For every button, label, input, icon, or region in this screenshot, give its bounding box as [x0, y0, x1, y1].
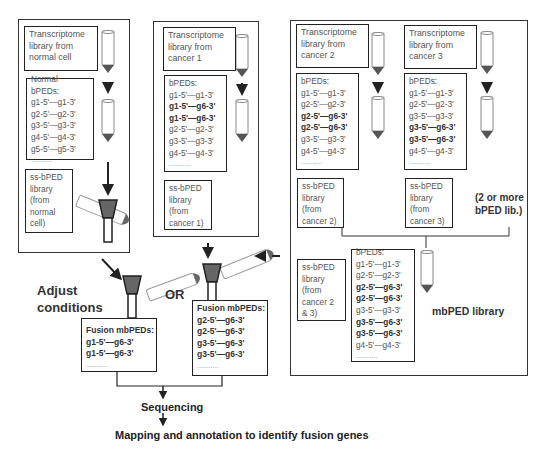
cancer1-bped-box: bPEDs: g1-5'—g1-3' g1-5'—g6-3' g1-5'—g6-… [164, 75, 227, 172]
ss-bped-line: (from [302, 285, 341, 297]
fusion-title: Fusion mbPEDs: [197, 303, 263, 315]
bped-item: g4-5'—g4-3' [31, 132, 89, 144]
ss-bped-line: & 3) [302, 308, 341, 320]
ss-bped-line: cancer 2 [302, 297, 341, 309]
fusion-left-box: Fusion mbPEDs: g1-5'—g6-3' g1-5'—g6-3' .… [81, 318, 157, 372]
bped-title: bPEDs: [409, 76, 462, 88]
bped-item: g2-5'—g2-3' [301, 99, 354, 111]
ss-bped-line: (from [30, 195, 68, 207]
ellipsis: ........... [86, 360, 152, 370]
bped-title: bPEDs: [301, 76, 354, 88]
bped-item: g3-5'—g3-3' [31, 120, 89, 132]
ss-bped-line: cancer 1) [169, 218, 207, 230]
ss-bped-line: ss-bPED [302, 181, 339, 193]
ellipsis: ........... [31, 155, 89, 165]
transcriptome-line: library from [409, 40, 472, 52]
ss-bped-line: ss-bPED [169, 183, 207, 195]
ss-bped-line: (from [302, 204, 339, 216]
bped-item: g1-5'—g1-3' [31, 97, 89, 109]
ss-bped-line: cancer 3) [410, 216, 448, 228]
transcriptome-line: Transcriptome [409, 28, 472, 40]
bped-item: g3-5'—g3-3' [409, 111, 462, 123]
ss-bped-line: library [302, 193, 339, 205]
normal-ss-bped-box: ss-bPED library (from normal cell) [25, 169, 73, 233]
multi-library-note: (2 or more bPED lib.) [475, 191, 539, 217]
mapping-step: Mapping and annotation to identify fusio… [115, 429, 369, 441]
ss-bped-line: ss-bPED [410, 181, 448, 193]
normal-bped-title-2: bPEDs: [31, 86, 89, 98]
fusion-bped-item: g3-5'—g6-3' [356, 317, 410, 329]
fusion-bped-item: g3-5'—g6-3' [356, 328, 410, 340]
transcriptome-line: cancer 3 [409, 51, 472, 63]
ss-bped-line: (from [169, 206, 207, 218]
fusion-bped-item: g2-5'—g6-3' [356, 293, 410, 305]
fusion-bped-item: g3-5'—g6-3' [409, 134, 462, 146]
ss-bped-line: cancer 2) [302, 216, 339, 228]
bped-item: g3-5'—g3-3' [169, 136, 222, 148]
transcriptome-line: cancer 2 [301, 50, 364, 62]
bped-item: g1-5'—g1-3' [356, 259, 410, 271]
bped-item: g1-5'—g1-3' [409, 88, 462, 100]
ss-bped-line: (from [410, 204, 448, 216]
note-line: (2 or more [475, 191, 539, 204]
bped-item: g3-5'—g3-3' [301, 134, 354, 146]
adjust-line: Adjust [37, 282, 103, 299]
fusion-bped-item: g2-5'—g6-3' [301, 122, 354, 134]
bped-item: g2-5'—g2-3' [356, 270, 410, 282]
fusion-item: g1-5'—g6-3' [86, 348, 152, 360]
bped-title: bPEDs: [169, 78, 222, 90]
ss-bped-line: cell) [30, 218, 68, 230]
transcriptome-line: Transcriptome [168, 30, 231, 42]
fusion-bped-item: g3-5'—g6-3' [409, 122, 462, 134]
ss-bped-line: library [30, 184, 68, 196]
fusion-bped-item: g2-5'—g6-3' [301, 111, 354, 123]
normal-transcriptome-label: Transcriptome library from normal cell [29, 29, 93, 64]
fusion-item: g3-5'—g6-3' [197, 349, 263, 361]
bped-item: g4-5'—g4-3' [169, 148, 222, 160]
transcriptome-line: library from [301, 39, 364, 51]
fusion-title: Fusion mbPEDs: [86, 325, 152, 337]
normal-transcriptome-box: Transcriptome library from normal cell [24, 26, 98, 71]
cancer1-ss-bped-box: ss-bPED library (from cancer 1) [164, 180, 212, 230]
cancer2-ss-bped-box: ss-bPED library (from cancer 2) [297, 178, 344, 228]
normal-bped-title: Normal [31, 74, 89, 86]
bped-title: bPEDs: [356, 247, 410, 259]
ss-bped-line: normal [30, 207, 68, 219]
ss-bped-line: ss-bPED [30, 172, 68, 184]
normal-bped-box: Normal bPEDs: g1-5'—g1-3' g2-5'—g2-3' g3… [26, 78, 94, 160]
note-line: bPED lib.) [475, 204, 539, 217]
or-label: OR [165, 287, 185, 302]
bped-item: g2-5'—g2-3' [31, 109, 89, 121]
fusion-item: g2-5'—g6-3' [197, 315, 263, 327]
bped-item: g4-5'—g4-3' [301, 146, 354, 158]
cancer3-transcriptome-box: Transcriptome library from cancer 3 [404, 25, 477, 69]
bped-item: g2-5'—g2-3' [169, 124, 222, 136]
transcriptome-line: library from [168, 42, 231, 54]
fusion-bped-item: g1-5'—g6-3' [169, 101, 222, 113]
fusion-bped-item: g1-5'—g6-3' [169, 113, 222, 125]
fusion-item: g1-5'—g6-3' [86, 337, 152, 349]
ellipsis: ........... [197, 361, 263, 371]
ss-bped-line: library [169, 195, 207, 207]
bped-item: g1-5'—g1-3' [301, 88, 354, 100]
bped-item: g2-5'—g2-3' [409, 99, 462, 111]
cancer2-transcriptome-box: Transcriptome library from cancer 2 [296, 24, 369, 68]
fusion-bped-item: g2-5'—g6-3' [356, 282, 410, 294]
bped-item: g4-5'—g4-3' [356, 340, 410, 352]
ellipsis: ........... [409, 157, 462, 167]
cancer2-bped-box: bPEDs: g1-5'—g1-3' g2-5'—g2-3' g2-5'—g6-… [296, 73, 359, 170]
ellipsis: ........... [356, 351, 410, 361]
fusion-right-box: Fusion mbPEDs: g2-5'—g6-3' g2-5'—g6-3' g… [192, 300, 268, 376]
ss-bped-line: library [302, 274, 341, 286]
ss-bped-line: library [410, 193, 448, 205]
cancer1-transcriptome-box: Transcriptome library from cancer 1 [163, 27, 236, 71]
combined-ss-bped-box: ss-bPED library (from cancer 2 & 3) [297, 259, 346, 321]
bped-item: g4-5'—g4-3' [409, 146, 462, 158]
cancer3-ss-bped-box: ss-bPED library (from cancer 3) [405, 178, 453, 228]
ellipsis: ........... [301, 157, 354, 167]
combined-bped-box: bPEDs: g1-5'—g1-3' g2-5'—g2-3' g2-5'—g6-… [351, 249, 415, 362]
bped-item: g3-5'—g3-3' [356, 305, 410, 317]
ellipsis: ........... [169, 159, 222, 169]
adjust-line: conditions [37, 299, 103, 316]
sequencing-step: Sequencing [141, 401, 203, 413]
